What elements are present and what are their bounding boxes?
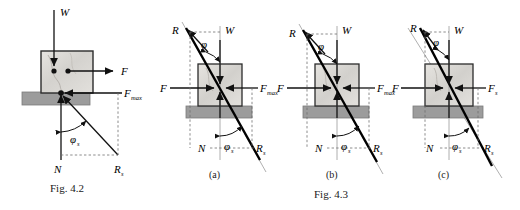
label-angle-bottom: φ — [452, 140, 458, 152]
label-angle-sub: s — [77, 140, 80, 147]
label-angle-bottom-sub: s — [348, 147, 351, 154]
ground-surface — [186, 106, 252, 118]
label-angle-top: φ — [318, 40, 324, 52]
resultant-axis — [186, 28, 260, 160]
figure-sheet: W F F max N R s φ s — [0, 0, 520, 210]
label-angle: φ — [70, 133, 76, 145]
label-normal: N — [425, 142, 434, 154]
angle-arc-bottom — [449, 128, 469, 136]
label-resultant: R — [113, 163, 121, 175]
label-angle-bottom-sub: s — [231, 147, 234, 154]
label-applied-force: F — [159, 82, 167, 94]
figure-4-3-b: W R F F max N R s φ φ s (b) Fig. 4.3 — [286, 0, 400, 210]
label-friction-max-sub: max — [131, 94, 142, 101]
label-friction-static-sub: s — [495, 89, 498, 96]
ground-surface — [22, 92, 90, 105]
label-resultant-top: R — [288, 27, 296, 39]
sub-label: (b) — [326, 169, 338, 181]
label-resultant-bottom: R — [372, 142, 380, 154]
figure-caption: Fig. 4.2 — [50, 182, 84, 194]
figure-4-3-b-canvas: W R F F max N R s φ φ s (b) Fig. 4.3 — [286, 0, 400, 210]
label-resultant-sub: s — [121, 170, 124, 177]
label-friction-static: F — [487, 82, 495, 94]
label-applied-force: F — [276, 82, 284, 94]
figure-4-2: W F F max N R s φ s — [0, 0, 170, 210]
angle-arc-bottom — [220, 126, 242, 136]
label-resultant-bottom-sub: s — [380, 149, 383, 156]
label-angle-bottom-sub: s — [459, 147, 462, 154]
label-normal: N — [53, 163, 62, 175]
figure-4-2-canvas: W F F max N R s φ s — [0, 0, 170, 210]
label-normal: N — [197, 142, 206, 154]
label-weight: W — [60, 6, 70, 18]
label-angle-bottom: φ — [341, 140, 347, 152]
figure-4-3-a: W R F F max N R s φ — [168, 0, 286, 210]
label-friction-max: F — [123, 87, 131, 99]
label-resultant-top: R — [171, 24, 179, 36]
weight-point — [51, 68, 56, 73]
label-angle-top: φ — [433, 36, 439, 48]
label-angle-bottom: φ — [224, 140, 230, 152]
angle-arc-top — [206, 52, 220, 62]
ground-surface — [303, 106, 369, 118]
sub-label: (a) — [209, 169, 220, 181]
contact-point — [58, 90, 64, 96]
figure-4-3-c-canvas: W R F F s N R s φ φ s (c) — [398, 0, 520, 210]
label-friction-max: F — [376, 82, 384, 94]
label-applied-force: F — [120, 65, 128, 77]
label-normal: N — [314, 142, 323, 154]
label-resultant-top: R — [409, 22, 417, 34]
ground-surface — [413, 106, 483, 118]
angle-arc-top — [438, 50, 449, 60]
sub-label: (c) — [438, 169, 449, 181]
figure-4-3-c: W R F F s N R s φ φ s (c) — [398, 0, 520, 210]
label-resultant-bottom-sub: s — [491, 149, 494, 156]
label-weight: W — [225, 24, 235, 36]
label-applied-force: F — [391, 82, 399, 94]
label-friction-max: F — [259, 82, 267, 94]
angle-arc-bottom — [337, 126, 359, 136]
label-resultant-bottom: R — [483, 142, 491, 154]
label-angle-top: φ — [201, 38, 207, 50]
label-weight: W — [342, 24, 352, 36]
figure-caption: Fig. 4.3 — [314, 188, 348, 200]
label-resultant-bottom-sub: s — [263, 149, 266, 156]
figure-4-3-a-canvas: W R F F max N R s φ — [168, 0, 286, 210]
label-weight: W — [454, 24, 464, 36]
angle-arc — [61, 121, 86, 132]
label-resultant-bottom: R — [255, 142, 263, 154]
resultant-reaction-arrow — [63, 96, 118, 155]
angle-arc-top — [323, 54, 337, 64]
